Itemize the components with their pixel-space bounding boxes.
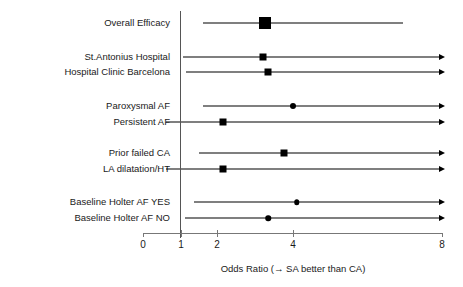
point-estimate-marker [219, 166, 226, 173]
arrow-right-icon [439, 150, 445, 156]
point-estimate-marker [280, 150, 287, 157]
axis-tick-label: 8 [439, 240, 445, 250]
arrow-right-icon [439, 69, 445, 75]
confidence-interval-line [199, 153, 439, 154]
arrow-right-icon [439, 119, 445, 125]
confidence-interval-line [194, 202, 439, 203]
point-estimate-marker [290, 103, 296, 109]
arrow-right-icon [439, 215, 445, 221]
arrow-right-icon [439, 166, 445, 172]
point-estimate-marker [219, 119, 226, 126]
axis-tick-label: 1 [178, 240, 184, 250]
point-estimate-marker [259, 54, 266, 61]
row-label: Overall Efficacy [104, 18, 170, 28]
null-reference-line [180, 11, 181, 238]
arrow-right-icon [439, 103, 445, 109]
axis-tick [143, 233, 144, 237]
arrow-right-icon [439, 54, 445, 60]
point-estimate-marker [294, 199, 300, 205]
point-estimate-marker [259, 17, 271, 29]
confidence-interval-line [203, 106, 439, 107]
axis-tick-label: 2 [214, 240, 220, 250]
confidence-interval-line [186, 72, 439, 73]
axis-tick-label: 4 [290, 240, 296, 250]
confidence-interval-line [183, 57, 439, 58]
row-label: LA dilatation/HT [103, 164, 170, 174]
point-estimate-marker [265, 69, 272, 76]
confidence-interval-line [166, 122, 439, 123]
axis-tick [181, 230, 182, 237]
axis-tick-label: 0 [140, 240, 146, 250]
forest-plot: Overall EfficacySt.Antonius HospitalHosp… [0, 0, 463, 287]
point-estimate-marker [266, 215, 272, 221]
axis-tick [293, 230, 294, 237]
confidence-interval-line [203, 23, 403, 24]
confidence-interval-line [185, 218, 439, 219]
row-label: Hospital Clinic Barcelona [64, 67, 170, 77]
row-label: Paroxysmal AF [106, 101, 170, 111]
row-label: Baseline Holter AF NO [74, 213, 170, 223]
arrow-right-icon [439, 199, 445, 205]
row-label: Baseline Holter AF YES [70, 197, 170, 207]
x-axis-title: Odds Ratio (→ SA better than CA) [221, 264, 366, 274]
confidence-interval-line [166, 169, 439, 170]
row-label: St.Antonius Hospital [84, 52, 170, 62]
row-label: Persistent AF [114, 117, 171, 127]
axis-tick [442, 233, 443, 237]
axis-tick [217, 230, 218, 237]
row-label: Prior failed CA [109, 148, 170, 158]
